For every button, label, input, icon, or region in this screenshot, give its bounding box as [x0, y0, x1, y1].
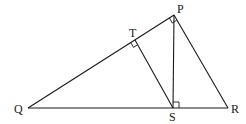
label-s: S	[169, 110, 176, 124]
label-t: T	[129, 26, 137, 40]
label-p: P	[177, 2, 184, 16]
right-angle-mark-s	[173, 102, 179, 108]
label-r: R	[231, 102, 239, 116]
label-q: Q	[14, 102, 23, 116]
segment-ps	[173, 15, 174, 108]
segment-pr	[174, 15, 228, 108]
segment-pq	[28, 15, 174, 108]
segment-st	[135, 40, 173, 108]
triangle-diagram: P T Q S R	[0, 0, 246, 124]
